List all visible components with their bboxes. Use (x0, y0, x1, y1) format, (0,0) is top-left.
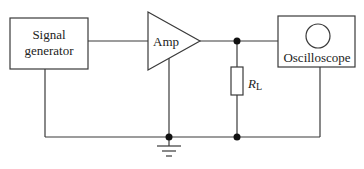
junction-dot-ground-amp (166, 134, 173, 141)
signal-generator-block: Signal generator (10, 18, 88, 69)
junction-dot-ground-resistor (234, 134, 241, 141)
circuit-diagram: Signal generator Amp RL Oscilloscope (0, 0, 364, 169)
amplifier-block: Amp (148, 12, 200, 70)
resistor-subscript: L (256, 81, 262, 92)
oscilloscope-label: Oscilloscope (283, 50, 350, 65)
resistor-symbol: R (247, 76, 256, 91)
resistor-icon (231, 67, 243, 95)
junction-dot-output (234, 38, 241, 45)
ground-icon (157, 146, 181, 156)
signal-generator-label-line2: generator (24, 43, 74, 58)
load-resistor: RL (231, 67, 262, 95)
amplifier-label: Amp (153, 34, 179, 49)
resistor-label: RL (247, 76, 262, 92)
oscilloscope-block: Oscilloscope (278, 16, 355, 67)
oscilloscope-screen-icon (306, 24, 330, 48)
signal-generator-label-line1: Signal (32, 27, 66, 42)
